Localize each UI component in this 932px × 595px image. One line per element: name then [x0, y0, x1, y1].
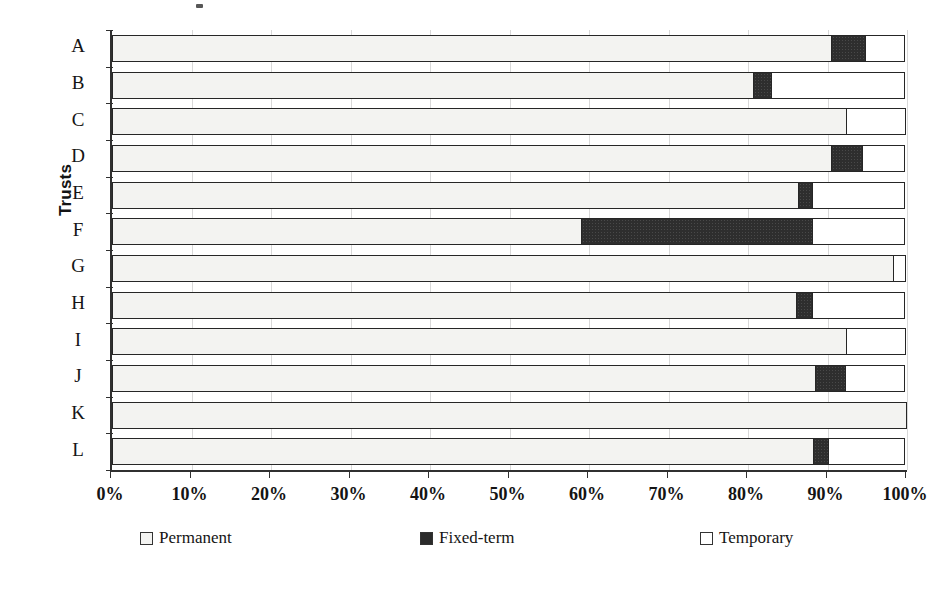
bar-segment-fixed [831, 35, 866, 62]
y-axis-tick [106, 287, 113, 288]
x-axis-label-10: 10% [155, 484, 225, 505]
bar-segment-fixed [831, 145, 863, 172]
bar-row [112, 328, 907, 355]
category-label-l: L [56, 439, 100, 461]
y-axis-tick [106, 213, 113, 214]
bar-row [112, 365, 907, 392]
y-axis-tick [106, 433, 113, 434]
bar-segment-temporary [862, 145, 905, 172]
bar-segment-permanent [112, 145, 832, 172]
x-axis-label-20: 20% [234, 484, 304, 505]
bar-segment-fixed [581, 218, 813, 245]
bar-row [112, 182, 907, 209]
x-axis-tick [905, 470, 906, 478]
x-axis-tick [269, 470, 270, 478]
bar-segment-temporary [846, 328, 906, 355]
legend-item-temporary[interactable]: Temporary [700, 528, 793, 548]
x-axis-label-30: 30% [314, 484, 384, 505]
bar-segment-temporary [812, 182, 905, 209]
x-axis-tick [587, 470, 588, 478]
scan-artifact-speck [196, 4, 203, 8]
x-axis-tick [667, 470, 668, 478]
gridline [907, 30, 908, 470]
bar-segment-fixed [753, 72, 771, 99]
y-axis-tick [106, 30, 113, 31]
x-axis-tick [190, 470, 191, 478]
bar-segment-temporary [812, 218, 905, 245]
x-axis-tick [110, 470, 111, 478]
bar-row [112, 145, 907, 172]
x-axis-tick [826, 470, 827, 478]
x-axis-label-60: 60% [552, 484, 622, 505]
category-label-b: B [56, 72, 100, 94]
legend-label: Temporary [719, 528, 793, 548]
bar-segment-fixed [815, 365, 846, 392]
category-label-c: C [56, 109, 100, 131]
x-axis-label-90: 90% [791, 484, 861, 505]
x-axis-label-80: 80% [711, 484, 781, 505]
bar-segment-permanent [112, 108, 847, 135]
bar-row [112, 255, 907, 282]
bar-row [112, 218, 907, 245]
plot-area [110, 30, 907, 472]
x-axis-tick [746, 470, 747, 478]
bar-segment-permanent [112, 182, 799, 209]
bar-segment-permanent [112, 35, 832, 62]
x-axis-label-50: 50% [473, 484, 543, 505]
bar-segment-temporary [771, 72, 905, 99]
category-label-k: K [56, 402, 100, 424]
category-label-f: F [56, 219, 100, 241]
bar-segment-temporary [845, 365, 905, 392]
legend-label: Permanent [159, 528, 232, 548]
bar-segment-permanent [112, 402, 907, 429]
y-axis-tick [106, 177, 113, 178]
bar-segment-fixed [813, 438, 829, 465]
chart-legend: PermanentFixed-termTemporary [110, 528, 905, 558]
y-axis-tick [106, 323, 113, 324]
bar-segment-permanent [112, 365, 816, 392]
category-label-j: J [56, 365, 100, 387]
bar-segment-temporary [812, 292, 905, 319]
category-label-i: I [56, 329, 100, 351]
bar-segment-permanent [112, 255, 894, 282]
legend-item-fixed-term[interactable]: Fixed-term [420, 528, 515, 548]
y-axis-tick [106, 397, 113, 398]
y-axis-tick [106, 140, 113, 141]
x-axis-label-100: 100% [870, 484, 932, 505]
x-axis-tick [508, 470, 509, 478]
category-label-d: D [56, 145, 100, 167]
bar-segment-permanent [112, 292, 797, 319]
bar-row [112, 402, 907, 429]
x-axis-tick [428, 470, 429, 478]
stacked-bar-chart: Trusts ABCDEFGHIJKL 0%10%20%30%40%50%60%… [0, 0, 932, 595]
bar-segment-permanent [112, 218, 582, 245]
permanent-swatch [140, 532, 153, 545]
bar-segment-permanent [112, 72, 754, 99]
bar-row [112, 35, 907, 62]
bar-segment-temporary [893, 255, 906, 282]
bar-segment-fixed [796, 292, 813, 319]
legend-item-permanent[interactable]: Permanent [140, 528, 232, 548]
y-axis-tick [106, 103, 113, 104]
bar-segment-temporary [846, 108, 906, 135]
x-axis-label-40: 40% [393, 484, 463, 505]
x-axis-label-0: 0% [75, 484, 145, 505]
category-label-e: E [56, 182, 100, 204]
bar-segment-permanent [112, 328, 847, 355]
x-axis-label-70: 70% [632, 484, 702, 505]
y-axis-tick [106, 67, 113, 68]
bar-segment-permanent [112, 438, 814, 465]
bar-row [112, 72, 907, 99]
category-label-h: H [56, 292, 100, 314]
legend-label: Fixed-term [439, 528, 515, 548]
y-axis-tick [106, 360, 113, 361]
category-label-a: A [56, 35, 100, 57]
bar-row [112, 438, 907, 465]
fixed-term-swatch [420, 532, 433, 545]
x-axis-tick [349, 470, 350, 478]
y-axis-tick [106, 250, 113, 251]
bar-row [112, 292, 907, 319]
bar-segment-fixed [798, 182, 813, 209]
temporary-swatch [700, 532, 713, 545]
bar-segment-temporary [828, 438, 905, 465]
